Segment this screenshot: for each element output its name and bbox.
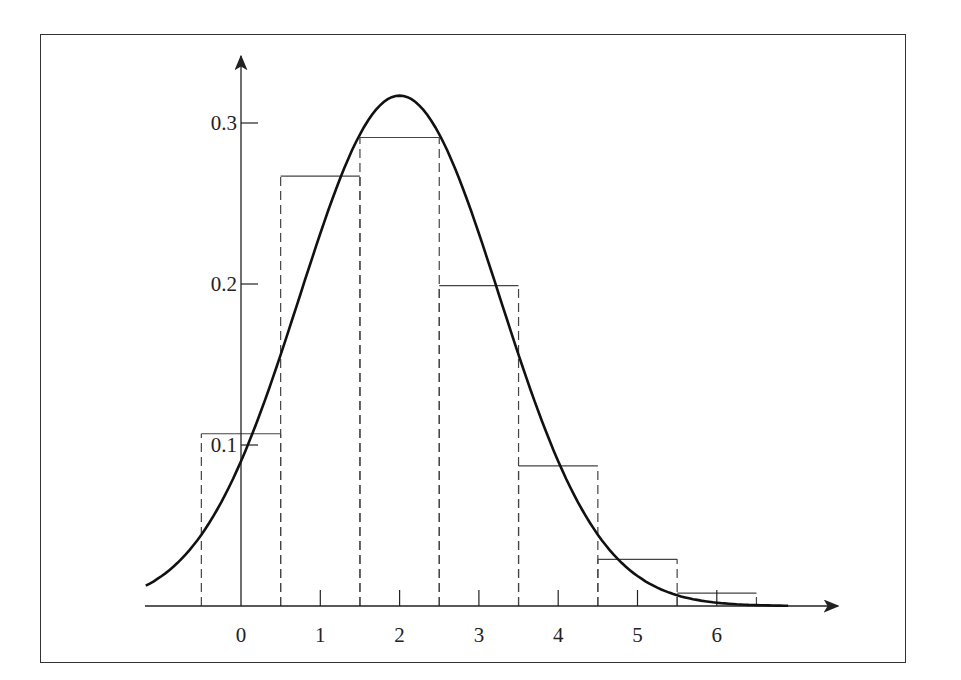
normal-curve xyxy=(146,96,788,606)
axis-ticks: 01234560.10.20.3 xyxy=(211,111,722,647)
x-tick-label: 3 xyxy=(474,623,485,647)
x-tick-label: 2 xyxy=(394,623,405,647)
histogram-bar xyxy=(439,286,518,606)
y-tick-label: 0.2 xyxy=(211,272,237,296)
histogram-chart: 01234560.10.20.3 xyxy=(0,0,961,680)
x-tick-label: 6 xyxy=(712,623,723,647)
axes xyxy=(145,56,838,606)
x-tick-label: 4 xyxy=(553,623,564,647)
histogram-bar xyxy=(360,137,439,606)
histogram-bar xyxy=(519,466,598,606)
y-tick-label: 0.1 xyxy=(211,433,237,457)
histogram-bars xyxy=(201,137,756,606)
x-tick-label: 1 xyxy=(315,623,326,647)
x-tick-label: 0 xyxy=(236,623,247,647)
y-tick-label: 0.3 xyxy=(211,111,237,135)
histogram-bar xyxy=(281,176,360,606)
x-tick-label: 5 xyxy=(632,623,643,647)
